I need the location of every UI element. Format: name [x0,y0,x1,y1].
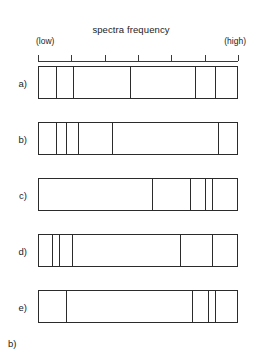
spectrum-band-line [215,290,216,323]
spectra-frequency-figure: spectra frequency (low) (high) a)b)c)d)e… [0,0,262,360]
spectrum-band-line [237,290,238,323]
spectrum-band-line [212,234,213,267]
axis-high-label: (high) [224,36,246,46]
figure-caption: b) [8,338,16,349]
spectrum-band-line [38,178,39,211]
spectrum-row: b) [38,122,238,155]
spectrum-band-line [38,290,39,323]
spectrum-band-line [152,178,153,211]
spectrum-row: e) [38,290,238,323]
spectrum-band-line [237,178,238,211]
spectrum-band-line [112,122,113,155]
spectrum-band-line [78,122,79,155]
spectrum-row-label: b) [19,133,27,144]
spectrum-row-edge-bottom [38,154,238,155]
spectrum-band-line [205,178,206,211]
axis-low-label: (low) [36,36,54,46]
axis-tick-5 [205,55,206,61]
spectrum-band-line [56,122,57,155]
spectrum-band-line [180,234,181,267]
spectrum-band-line [38,66,39,99]
spectrum-row-label: a) [19,77,27,88]
spectrum-band-line [212,178,213,211]
axis-tick-0 [38,55,39,61]
spectrum-band-line [215,66,216,99]
spectrum-band-line [208,290,209,323]
spectrum-band-line [72,234,73,267]
spectrum-band-line [237,66,238,99]
spectrum-row-edge-bottom [38,98,238,99]
spectrum-row-edge-bottom [38,266,238,267]
spectrum-row-label: d) [19,245,27,256]
axis-tick-2 [105,55,106,61]
spectrum-band-line [237,234,238,267]
spectrum-band-line [130,66,131,99]
axis-line [38,61,238,62]
spectrum-band-line [38,234,39,267]
spectrum-row: d) [38,234,238,267]
spectrum-band-line [38,122,39,155]
spectrum-band-line [73,66,74,99]
spectrum-band-line [59,234,60,267]
axis-tick-3 [138,55,139,61]
spectrum-band-line [195,66,196,99]
axis-title: spectra frequency [0,24,262,35]
spectrum-band-line [192,290,193,323]
spectrum-band-line [218,122,219,155]
spectrum-row-edge-top [38,66,238,67]
spectrum-band-line [56,66,57,99]
spectrum-band-line [190,178,191,211]
spectrum-row-label: e) [19,301,27,312]
frequency-axis [38,50,238,62]
spectrum-band-line [66,122,67,155]
axis-tick-4 [171,55,172,61]
spectrum-row-edge-top [38,234,238,235]
axis-tick-6 [238,55,239,61]
spectrum-row: a) [38,66,238,99]
spectrum-row-edge-bottom [38,210,238,211]
spectrum-band-line [52,234,53,267]
spectrum-row-label: c) [19,189,27,200]
axis-tick-1 [71,55,72,61]
spectrum-row-edge-top [38,122,238,123]
spectrum-band-line [66,290,67,323]
spectrum-band-line [237,122,238,155]
spectrum-row-edge-top [38,178,238,179]
spectrum-row: c) [38,178,238,211]
